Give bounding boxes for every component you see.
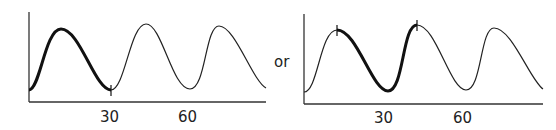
right-panel xyxy=(304,14,543,104)
left-highlight-segment xyxy=(29,29,111,90)
right-highlight-segment xyxy=(337,25,417,91)
left-tick-label-60: 60 xyxy=(178,110,197,125)
right-tick-label-30: 30 xyxy=(374,111,393,126)
connector-or: or xyxy=(274,55,289,70)
right-tick-label-60: 60 xyxy=(453,111,472,126)
left-tick-label-30: 30 xyxy=(100,110,119,125)
left-wave xyxy=(29,24,266,90)
right-wave xyxy=(304,25,543,92)
left-panel xyxy=(29,12,266,102)
